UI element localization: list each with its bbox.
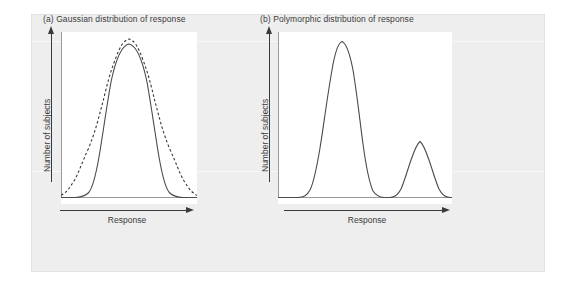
panel-a-curve-solid	[61, 44, 197, 198]
chart-panel-a: (a) Gaussian distribution of response Nu…	[31, 14, 255, 244]
right-arrow-icon	[442, 207, 450, 213]
panel-b-curve-solid	[278, 42, 452, 198]
panel-a-y-axis	[51, 34, 52, 182]
panel-a-curve-dashed	[61, 39, 197, 195]
panel-b-x-axis	[284, 210, 444, 211]
panel-a-curves	[61, 32, 197, 204]
right-arrow-icon	[186, 207, 194, 213]
panel-b-y-axis	[269, 34, 270, 182]
up-arrow-icon	[48, 26, 54, 34]
panel-a-title: (a) Gaussian distribution of response	[43, 14, 186, 24]
panel-a-plot-area	[61, 32, 197, 204]
figure-root: (a) Gaussian distribution of response Nu…	[0, 0, 576, 287]
panel-b-plot-area	[278, 32, 452, 204]
panel-a-x-axis-label: Response	[60, 215, 194, 225]
panel-b-curves	[278, 32, 452, 204]
up-arrow-icon	[266, 26, 272, 34]
panel-b-title: (b) Polymorphic distribution of response	[260, 14, 414, 24]
panel-b-plot-frame	[279, 32, 453, 198]
panel-a-x-axis	[60, 210, 188, 211]
chart-panel-b: (b) Polymorphic distribution of response…	[252, 14, 500, 244]
panel-b-x-axis-label: Response	[284, 215, 450, 225]
panel-a-plot-frame	[62, 32, 198, 198]
